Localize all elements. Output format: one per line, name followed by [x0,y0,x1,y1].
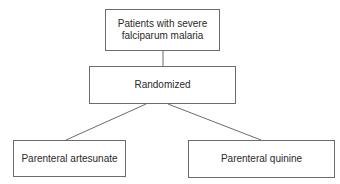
population-box: Patients with severe falciparum malaria [105,9,220,51]
quinine-arm-box: Parenteral quinine [188,140,335,178]
randomized-box: Randomized [89,66,236,104]
randomized-label: Randomized [134,79,190,91]
quinine-arm-label: Parenteral quinine [221,153,302,165]
population-label: Patients with severe falciparum malaria [106,18,219,42]
trial-flow-diagram: Patients with severe falciparum malaria … [0,0,340,184]
edge-randomized-to-quinine [168,104,261,140]
artesunate-arm-box: Parenteral artesunate [13,140,126,177]
edge-randomized-to-artesunate [66,104,146,140]
artesunate-arm-label: Parenteral artesunate [21,153,117,165]
